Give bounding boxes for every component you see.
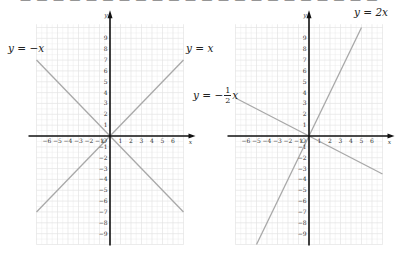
- tick-label: 2: [303, 110, 307, 117]
- label-y-x: y = x: [186, 42, 213, 54]
- tick-label: 6: [370, 137, 374, 144]
- tick-label: −5: [298, 186, 307, 193]
- tick-label: 7: [303, 56, 307, 63]
- tick-label: 9: [104, 34, 108, 41]
- tick-label: x: [189, 138, 193, 145]
- tick-label: −4: [298, 175, 307, 182]
- label-y-neg-half-x: y = −12x: [193, 86, 238, 105]
- graph-1: −6−5−4−3−2−1123456987654321−1−2−3−4−5−6−…: [29, 10, 196, 245]
- label-y-2x: y = 2x: [354, 6, 388, 18]
- tick-label: −3: [74, 137, 83, 144]
- tick-label: −9: [298, 230, 307, 237]
- tick-label: −5: [99, 186, 108, 193]
- tick-label: −2: [298, 154, 307, 161]
- tick-label: 6: [104, 67, 108, 74]
- tick-label: −6: [242, 137, 251, 144]
- fraction-denominator: 2: [224, 96, 231, 105]
- tick-label: −6: [43, 137, 52, 144]
- tick-label: 5: [161, 137, 165, 144]
- tick-label: −2: [85, 137, 94, 144]
- y-axis-arrow-icon: [108, 10, 113, 18]
- tick-label: 1: [119, 137, 123, 144]
- tick-label: y: [302, 11, 307, 19]
- tick-label: 8: [104, 45, 108, 52]
- tick-label: −3: [298, 165, 307, 172]
- tick-label: O: [102, 137, 107, 144]
- fraction-numerator: 1: [224, 86, 231, 96]
- tick-label: 7: [104, 56, 108, 63]
- tick-label: 5: [104, 78, 108, 85]
- tick-label: 4: [303, 89, 307, 96]
- tick-label: −2: [99, 154, 108, 161]
- tick-label: −4: [99, 175, 108, 182]
- tick-label: −6: [99, 197, 108, 204]
- tick-label: −5: [252, 137, 261, 144]
- label-y-neg-x: y = −x: [8, 42, 44, 54]
- tick-label: −3: [99, 165, 108, 172]
- tick-label: 6: [303, 67, 307, 74]
- tick-label: 5: [360, 137, 364, 144]
- tick-label: −4: [64, 137, 73, 144]
- tick-label: −7: [99, 208, 108, 215]
- tick-label: −3: [273, 137, 282, 144]
- tick-label: 4: [349, 137, 353, 144]
- tick-label: 2: [104, 110, 108, 117]
- tick-label: x: [388, 138, 392, 145]
- graph-2: −6−5−4−3−2−1123456987654321−1−2−3−4−5−6−…: [228, 10, 395, 245]
- tick-label: 4: [104, 89, 108, 96]
- function-graphs: −6−5−4−3−2−1123456987654321−1−2−3−4−5−6−…: [0, 0, 395, 257]
- tick-label: −8: [298, 219, 307, 226]
- tick-label: 3: [140, 137, 144, 144]
- fraction: 12: [224, 86, 231, 105]
- tick-label: −8: [99, 219, 108, 226]
- tick-label: 3: [303, 99, 307, 106]
- tick-label: 1: [318, 137, 322, 144]
- tick-label: 6: [171, 137, 175, 144]
- tick-label: 2: [328, 137, 332, 144]
- tick-label: 3: [104, 99, 108, 106]
- tick-label: 1: [104, 121, 108, 128]
- tick-label: −6: [298, 197, 307, 204]
- tick-label: 4: [150, 137, 154, 144]
- label-suffix: x: [232, 89, 238, 101]
- tick-label: −4: [263, 137, 272, 144]
- tick-label: 8: [303, 45, 307, 52]
- tick-label: 9: [303, 34, 307, 41]
- tick-label: 3: [339, 137, 343, 144]
- y-axis-arrow-icon: [307, 10, 312, 18]
- tick-label: y: [103, 11, 108, 19]
- tick-label: −5: [53, 137, 62, 144]
- tick-label: 5: [303, 78, 307, 85]
- tick-label: 2: [129, 137, 133, 144]
- tick-label: O: [301, 137, 306, 144]
- label-prefix: y = −: [193, 89, 223, 101]
- tick-label: −7: [298, 208, 307, 215]
- tick-label: −9: [99, 230, 108, 237]
- tick-label: 1: [303, 121, 307, 128]
- tick-label: −2: [284, 137, 293, 144]
